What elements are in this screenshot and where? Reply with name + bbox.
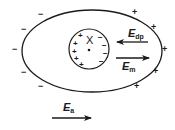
positive-charge: + — [162, 45, 167, 54]
negative-charge: − — [21, 25, 26, 34]
ea-label-sub: a — [70, 107, 74, 114]
center-x-mark: X — [86, 35, 93, 46]
positive-charge: + — [132, 8, 137, 17]
edp-label-sub: dp — [135, 33, 144, 40]
positive-charge: + — [134, 82, 139, 91]
diagram-canvas — [0, 0, 175, 130]
negative-charge: − — [38, 10, 43, 19]
cell-membrane-ellipse — [22, 10, 162, 92]
inner-positive-charge: + — [79, 61, 84, 69]
ea-label: Ea — [63, 102, 74, 114]
negative-charge: − — [38, 82, 43, 91]
center-dot — [88, 49, 91, 52]
inner-negative-charge: − — [99, 58, 104, 66]
em-label-sub: m — [129, 66, 135, 73]
edp-label: Edp — [128, 28, 144, 40]
inner-positive-charge: + — [74, 55, 79, 63]
inner-positive-charge: + — [78, 32, 83, 40]
em-label: Em — [122, 61, 136, 73]
positive-charge: + — [151, 23, 156, 32]
negative-charge: − — [21, 68, 26, 77]
positive-charge: + — [153, 67, 158, 76]
negative-charge: − — [12, 45, 17, 54]
